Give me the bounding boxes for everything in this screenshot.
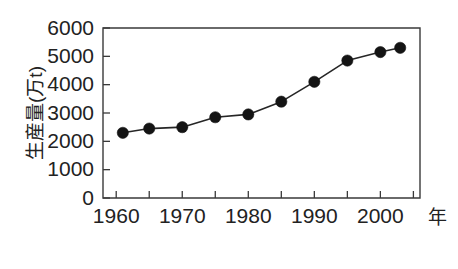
y-axis-ticks: [103, 28, 110, 198]
y-axis-title: 生産量(万t): [25, 66, 46, 160]
y-tick-label: 5000: [47, 44, 94, 67]
data-point-marker: [243, 109, 254, 120]
data-point-marker: [210, 112, 221, 123]
x-axis-title: 年: [428, 207, 447, 228]
data-series-production: [117, 42, 406, 138]
data-point-marker: [309, 76, 320, 87]
data-point-marker: [144, 123, 155, 134]
data-point-marker: [276, 96, 287, 107]
x-tick-label: 1960: [93, 204, 140, 227]
y-tick-label: 3000: [47, 101, 94, 124]
x-tick-label: 1970: [159, 204, 206, 227]
y-tick-label: 4000: [47, 72, 94, 95]
production-line-chart: 0100020003000400050006000 19601970198019…: [0, 0, 458, 269]
x-axis-ticks: [116, 191, 413, 198]
data-point-marker: [375, 46, 386, 57]
chart-figure: 0100020003000400050006000 19601970198019…: [0, 0, 458, 269]
y-tick-label: 2000: [47, 129, 94, 152]
y-tick-label: 1000: [47, 157, 94, 180]
x-tick-label: 1990: [291, 204, 338, 227]
data-point-marker: [177, 122, 188, 133]
y-tick-label: 6000: [47, 16, 94, 39]
data-point-marker: [342, 55, 353, 66]
series-line: [123, 48, 400, 133]
x-tick-label: 2000: [357, 204, 404, 227]
x-tick-label: 1980: [225, 204, 272, 227]
x-axis-tick-labels: 19601970198019902000: [93, 204, 404, 227]
y-axis-tick-labels: 0100020003000400050006000: [47, 16, 94, 209]
data-point-marker: [395, 42, 406, 53]
data-point-marker: [117, 127, 128, 138]
